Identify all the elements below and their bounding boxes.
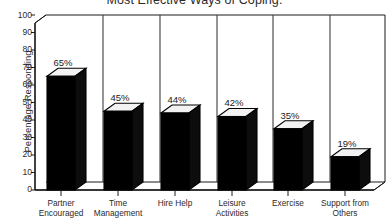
x-category-label-line: Others	[310, 209, 380, 219]
bar-support-from-others	[331, 149, 370, 190]
bar-side-face	[246, 109, 257, 191]
x-category-label-line: Activities	[197, 209, 267, 219]
bar-value-label: 45%	[100, 93, 140, 103]
bar-front-face	[104, 111, 132, 190]
bar-side-face	[75, 68, 86, 190]
chart-figure: Most Effective Ways of Coping. Percentag…	[0, 0, 389, 223]
bar-exercise	[274, 121, 313, 190]
bar-front-face	[331, 157, 359, 190]
bar-front-face	[274, 129, 302, 190]
bar-value-label: 44%	[157, 95, 197, 105]
x-category-label-support-from-others: Support from Others	[310, 199, 380, 218]
bar-value-label: 42%	[214, 98, 254, 108]
bar-front-face	[161, 113, 189, 190]
bar-value-label: 19%	[327, 139, 367, 149]
bar-side-face	[189, 105, 200, 190]
bar-front-face	[218, 117, 246, 191]
bar-time-management	[104, 103, 143, 190]
bar-side-face	[359, 149, 370, 190]
bar-side-face	[302, 121, 313, 190]
bar-side-face	[132, 103, 143, 190]
bar-partner-encouraged	[47, 68, 86, 190]
x-category-label-line: Management	[83, 209, 153, 219]
bar-value-label: 65%	[43, 58, 83, 68]
bar-hire-help	[161, 105, 200, 190]
bar-value-label: 35%	[270, 111, 310, 121]
x-axis-ticks	[61, 190, 345, 196]
bar-leisure-activities	[218, 109, 257, 191]
bar-chart-plot	[0, 0, 389, 223]
bar-front-face	[47, 76, 75, 190]
